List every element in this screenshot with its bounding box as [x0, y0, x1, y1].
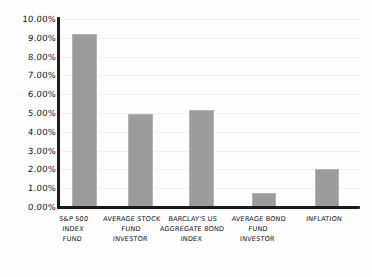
bar-barclays-us-aggregate-bond-index: [189, 110, 214, 207]
gridline: [60, 38, 360, 39]
x-label-line: Barclay's US: [156, 214, 229, 224]
y-tick-label: 9.00%: [2, 33, 57, 43]
x-axis-line: [57, 206, 360, 209]
y-tick-label: 1.00%: [2, 183, 57, 193]
y-tick-label: 5.00%: [2, 108, 57, 118]
y-tick-label: 4.00%: [2, 127, 57, 137]
gridline: [60, 94, 360, 95]
x-category-label-barclays-us-aggregate-bond-index: Barclay's US Aggregate Bond Index: [155, 214, 229, 244]
y-axis-line: [57, 17, 60, 209]
y-tick-label: 0.00%: [2, 202, 57, 212]
bar-average-bond-fund-investor: [252, 193, 276, 207]
plot-area: [60, 19, 360, 207]
gridline: [60, 75, 360, 76]
bar-chart: 10.00% 9.00% 8.00% 7.00% 6.00% 5.00% 4.0…: [0, 0, 372, 277]
x-label-line: Aggregate Bond: [156, 224, 229, 234]
y-tick-label: 6.00%: [2, 89, 57, 99]
x-label-line: Average Bond: [224, 214, 293, 224]
y-tick-label: 8.00%: [2, 52, 57, 62]
y-tick-label: 10.00%: [2, 14, 57, 24]
y-tick-label: 2.00%: [2, 164, 57, 174]
x-label-line: Fund: [224, 224, 293, 234]
x-label-line: Index: [155, 234, 228, 244]
bar-average-stock-fund-investor: [128, 114, 153, 207]
gridline: [60, 19, 360, 20]
x-category-label-average-bond-fund-investor: Average Bond Fund Investor: [223, 214, 293, 244]
x-label-line: Inflation: [294, 214, 355, 224]
bar-inflation: [315, 169, 339, 207]
x-label-line: Investor: [223, 234, 292, 244]
y-tick-label: 3.00%: [2, 146, 57, 156]
bar-sp-500-index-fund: [72, 34, 97, 207]
x-category-label-inflation: Inflation: [294, 214, 355, 224]
gridline: [60, 57, 360, 58]
y-tick-label: 7.00%: [2, 70, 57, 80]
